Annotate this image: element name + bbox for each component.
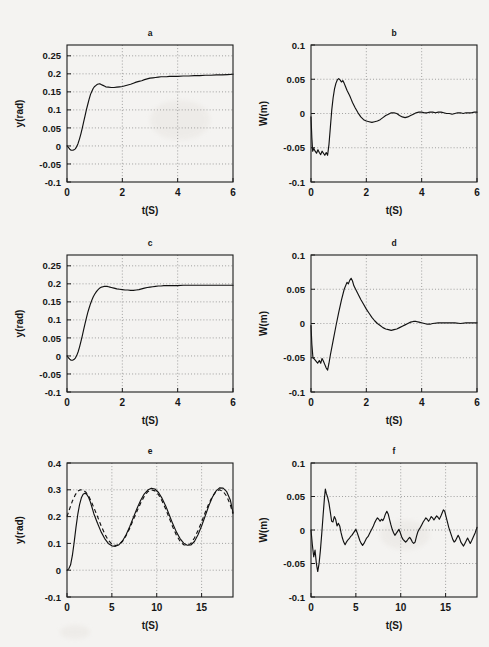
y-tick-label: -0.1 — [289, 387, 306, 398]
x-tick-label: 4 — [419, 397, 425, 408]
y-tick-label: -0.1 — [45, 177, 62, 188]
x-axis-label: t(S) — [386, 205, 403, 216]
panel-f: f051015-0.1-0.0500.050.1t(S)W(m) — [244, 432, 489, 644]
panel-title: e — [148, 446, 153, 456]
y-axis-label: y(rad) — [14, 310, 25, 338]
x-tick-label: 0 — [64, 187, 70, 198]
x-tick-label: 2 — [364, 187, 370, 198]
y-tick-label: 0.1 — [292, 250, 306, 261]
panel-title: c — [148, 238, 153, 248]
panel-d: d0246-0.1-0.0500.050.1t(S)W(m) — [244, 224, 489, 439]
panel-title: f — [393, 446, 396, 456]
y-tick-label: -0.05 — [283, 558, 305, 569]
x-tick-label: 5 — [353, 602, 359, 613]
x-tick-label: 4 — [175, 187, 181, 198]
y-tick-label: 0 — [300, 525, 305, 536]
y-tick-label: 0.2 — [48, 278, 61, 289]
x-tick-label: 4 — [419, 187, 425, 198]
y-tick-label: 0.25 — [43, 50, 62, 61]
data-series-output — [311, 79, 477, 156]
x-tick-label: 2 — [120, 397, 126, 408]
y-axis-label: W(m) — [258, 518, 269, 543]
axes-frame — [67, 255, 233, 392]
data-series-output — [67, 488, 233, 570]
panel-c: c0246-0.1-0.0500.050.10.150.20.25t(S)y(r… — [0, 224, 245, 439]
data-series-output — [67, 285, 233, 360]
panel-e: e051015-0.100.10.20.30.4t(S)y(rad) — [0, 432, 245, 644]
y-tick-label: -0.05 — [283, 142, 305, 153]
x-tick-label: 6 — [474, 397, 480, 408]
y-axis-label: y(rad) — [14, 100, 25, 128]
y-axis-label: y(rad) — [14, 516, 25, 544]
x-tick-label: 0 — [308, 187, 314, 198]
y-tick-label: 0 — [56, 351, 61, 362]
y-tick-label: 0.2 — [48, 68, 61, 79]
y-tick-label: 0.1 — [292, 458, 306, 469]
x-tick-label: 6 — [230, 397, 236, 408]
y-tick-label: -0.1 — [289, 177, 306, 188]
y-tick-label: 0.2 — [48, 511, 61, 522]
panel-title: a — [148, 28, 153, 38]
y-tick-label: -0.1 — [45, 592, 62, 603]
y-tick-label: 0.1 — [292, 40, 306, 51]
x-axis-label: t(S) — [142, 205, 159, 216]
y-tick-label: 0.05 — [43, 333, 62, 344]
x-axis-label: t(S) — [142, 620, 159, 631]
y-tick-label: 0.25 — [43, 260, 62, 271]
x-tick-label: 10 — [151, 602, 163, 613]
y-tick-label: 0.05 — [287, 74, 306, 85]
y-tick-label: 0.15 — [43, 86, 62, 97]
y-tick-label: 0.3 — [48, 484, 61, 495]
panel-title: d — [391, 238, 396, 248]
y-axis-label: W(m) — [258, 311, 269, 336]
y-tick-label: -0.05 — [39, 159, 61, 170]
y-tick-label: 0.05 — [287, 491, 306, 502]
data-series-reference — [67, 490, 233, 546]
y-tick-label: -0.05 — [283, 352, 305, 363]
y-tick-label: 0.15 — [43, 296, 62, 307]
y-tick-label: -0.1 — [45, 387, 62, 398]
x-axis-label: t(S) — [386, 620, 403, 631]
x-tick-label: 2 — [120, 187, 126, 198]
x-tick-label: 2 — [364, 397, 370, 408]
panel-title: b — [391, 28, 396, 38]
x-tick-label: 6 — [474, 187, 480, 198]
y-tick-label: 0.1 — [48, 104, 62, 115]
y-tick-label: 0.4 — [48, 458, 62, 469]
panel-b: b0246-0.1-0.0500.050.1t(S)W(m) — [244, 14, 489, 229]
x-tick-label: 0 — [64, 397, 70, 408]
x-tick-label: 0 — [308, 602, 314, 613]
axes-frame — [67, 463, 233, 597]
x-axis-label: t(S) — [142, 415, 159, 426]
y-tick-label: -0.05 — [39, 369, 61, 380]
y-tick-label: 0 — [300, 318, 305, 329]
x-tick-label: 0 — [308, 397, 314, 408]
data-series-output — [67, 74, 233, 150]
y-tick-label: 0 — [56, 141, 61, 152]
x-tick-label: 15 — [440, 602, 452, 613]
x-tick-label: 15 — [196, 602, 208, 613]
y-tick-label: -0.1 — [289, 592, 306, 603]
x-tick-label: 5 — [109, 602, 115, 613]
x-tick-label: 4 — [175, 397, 181, 408]
y-tick-label: 0.1 — [48, 314, 62, 325]
y-axis-label: W(m) — [258, 101, 269, 126]
data-series-output — [311, 278, 477, 370]
x-axis-label: t(S) — [386, 415, 403, 426]
y-tick-label: 0.05 — [43, 123, 62, 134]
axes-frame — [67, 45, 233, 182]
x-tick-label: 0 — [64, 602, 70, 613]
x-tick-label: 10 — [395, 602, 407, 613]
y-tick-label: 0.05 — [287, 284, 306, 295]
y-tick-label: 0 — [56, 565, 61, 576]
panel-a: a0246-0.1-0.0500.050.10.150.20.25t(S)y(r… — [0, 14, 245, 229]
x-tick-label: 6 — [230, 187, 236, 198]
figure-canvas: a0246-0.1-0.0500.050.10.150.20.25t(S)y(r… — [0, 0, 489, 647]
y-tick-label: 0 — [300, 108, 305, 119]
y-tick-label: 0.1 — [48, 538, 62, 549]
